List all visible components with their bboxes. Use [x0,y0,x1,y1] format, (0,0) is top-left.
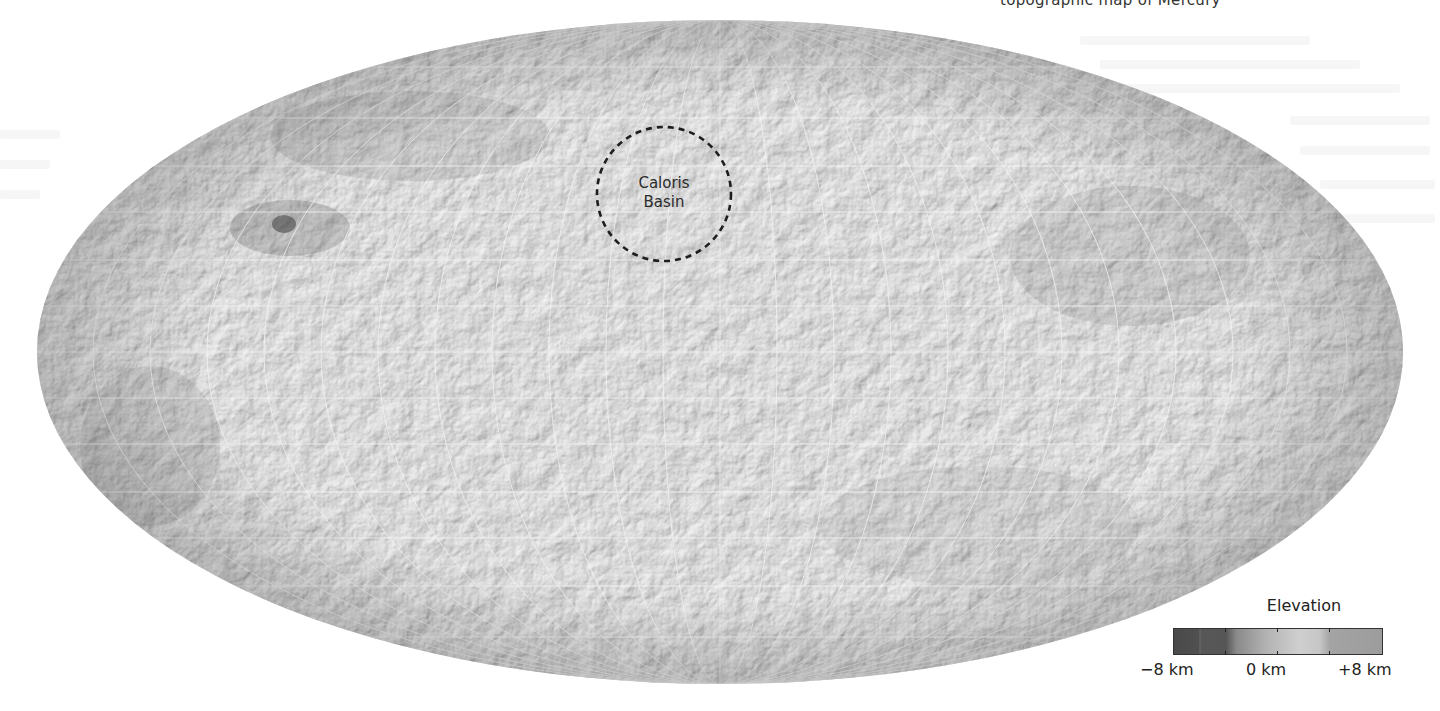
caloris-label-line2: Basin [604,193,724,212]
legend-max-label: +8 km [1338,660,1392,679]
mercury-map: Caloris Basin [30,16,1410,688]
legend-tick [1329,628,1330,655]
caption-fragment: topographic map of Mercury [1000,0,1440,11]
legend-mid-label: 0 km [1246,660,1286,679]
caloris-basin-label: Caloris Basin [604,174,724,212]
elevation-colorbar [1173,628,1383,655]
mollweide-map-surface [30,16,1410,688]
elevation-legend: Elevation −8 km 0 km +8 km [1140,596,1420,696]
legend-title: Elevation [1140,596,1420,615]
legend-tick [1277,628,1278,655]
legend-tick [1225,628,1226,655]
legend-min-label: −8 km [1140,660,1194,679]
caloris-label-line1: Caloris [604,174,724,193]
